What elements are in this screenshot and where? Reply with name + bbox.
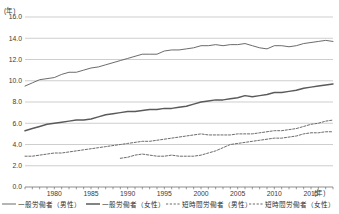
legend: 一般労働者（男性）一般労働者（女性）短時間労働者（男性）短時間労働者（女性） <box>2 200 335 209</box>
legend-label-2: 短時間労働者（男性） <box>182 200 252 209</box>
y-axis-tick-label: 8.0 <box>13 98 23 105</box>
y-axis-tick-label: 14.0 <box>9 35 22 42</box>
y-axis-tick-label: 4.0 <box>13 141 23 148</box>
y-axis-tick-label: 0.0 <box>13 183 23 190</box>
y-axis-tick-label: 16.0 <box>9 13 22 20</box>
series-line-2 <box>120 132 333 159</box>
y-axis-tick-label: 6.0 <box>13 120 23 127</box>
line-chart: 0.02.04.06.08.010.012.014.016.0 19801985… <box>0 0 339 214</box>
y-axis-tick-label: 2.0 <box>13 162 23 169</box>
x-axis-tick-label: 2005 <box>230 190 245 197</box>
series-line-3 <box>25 120 333 156</box>
legend-label-1: 一般労働者（女性） <box>102 200 165 209</box>
x-axis-unit-label: (年) <box>314 188 325 197</box>
series-line-0 <box>25 40 333 86</box>
series-line-1 <box>25 84 333 131</box>
y-axis-tick-labels: 0.02.04.06.08.010.012.014.016.0 <box>9 13 22 190</box>
chart-canvas: 0.02.04.06.08.010.012.014.016.0 19801985… <box>0 0 339 214</box>
x-axis-tick-label: 1985 <box>83 190 98 197</box>
gridlines <box>25 17 333 187</box>
x-axis-tick-labels: 19801985199019952000200520102015 <box>47 190 319 197</box>
x-axis-tick-label: 2000 <box>193 190 208 197</box>
x-axis-tick-label: 1980 <box>47 190 62 197</box>
y-axis-tick-label: 10.0 <box>9 77 22 84</box>
y-axis-unit-label: (年) <box>4 6 15 15</box>
x-axis-tick-label: 1990 <box>120 190 135 197</box>
x-axis-tick-label: 1995 <box>157 190 172 197</box>
legend-label-0: 一般労働者（男性） <box>18 200 81 209</box>
data-series <box>25 40 333 158</box>
x-axis-tick-label: 2010 <box>267 190 282 197</box>
y-axis-tick-label: 12.0 <box>9 56 22 63</box>
legend-label-3: 短時間労働者（女性） <box>265 200 335 209</box>
